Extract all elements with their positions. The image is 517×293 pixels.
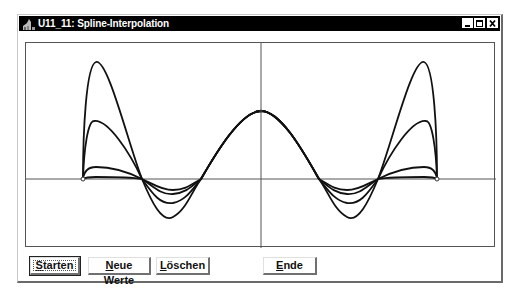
spline-chart	[26, 43, 496, 248]
window-title: U11_11: Spline-Interpolation	[38, 17, 169, 30]
node-point	[435, 177, 439, 181]
spline-curves	[83, 62, 437, 218]
close-icon	[488, 19, 499, 29]
title-bar[interactable]: U11_11: Spline-Interpolation	[19, 16, 500, 31]
plot-area	[25, 42, 495, 247]
ende-button[interactable]: Ende	[263, 257, 317, 275]
spline-3-left	[83, 111, 261, 194]
maximize-button[interactable]	[474, 18, 485, 28]
app-icon[interactable]	[22, 17, 36, 30]
minimize-button[interactable]	[462, 18, 473, 28]
starten-button[interactable]: Starten	[30, 257, 80, 275]
node-point	[81, 177, 85, 181]
spline-3-right	[261, 111, 437, 194]
neue-werte-button[interactable]: Neue Werte	[88, 257, 151, 275]
minimize-icon	[463, 19, 474, 29]
button-label: nde	[283, 259, 303, 271]
loeschen-button[interactable]: Löschen	[156, 257, 210, 275]
spline-4-left	[83, 111, 261, 190]
mnemonic: L	[160, 259, 167, 271]
spline-4-right	[261, 111, 437, 190]
button-label: öschen	[167, 259, 206, 271]
focus-rect	[33, 260, 76, 271]
node-point	[260, 110, 263, 113]
close-button[interactable]	[487, 18, 498, 28]
maximize-icon	[475, 19, 486, 29]
